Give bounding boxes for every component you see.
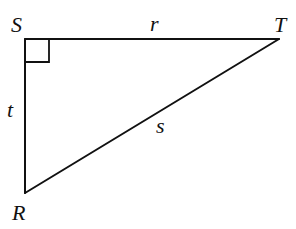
right-angle-marker xyxy=(25,39,49,62)
side-label-s: s xyxy=(156,113,165,138)
side-label-t: t xyxy=(7,97,14,122)
vertex-label-r: R xyxy=(11,200,26,225)
triangle-diagram: S T R r t s xyxy=(0,0,296,229)
side-label-r: r xyxy=(150,11,159,36)
vertex-label-s: S xyxy=(11,12,22,37)
vertex-label-t: T xyxy=(274,12,288,37)
side-s xyxy=(25,39,279,193)
